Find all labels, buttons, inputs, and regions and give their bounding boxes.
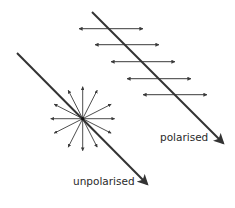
polarised-group: polarised — [79, 12, 223, 143]
star-vibration-arrow — [83, 90, 98, 119]
unpolarised-group: unpolarised — [17, 53, 147, 187]
star-vibration-arrow — [54, 104, 82, 119]
polarisation-diagram: polarised unpolarised — [0, 0, 235, 208]
polarised-label: polarised — [160, 131, 208, 143]
star-center-dot — [81, 117, 84, 120]
star-vibration-arrow — [83, 119, 112, 134]
polarised-ray-arrow — [92, 12, 223, 143]
star-vibration-arrow — [83, 104, 112, 119]
star-vibration-arrow — [68, 119, 83, 148]
star-vibration-arrow — [68, 90, 83, 119]
star-vibration-arrow — [54, 119, 82, 134]
unpolarised-label: unpolarised — [73, 175, 135, 187]
